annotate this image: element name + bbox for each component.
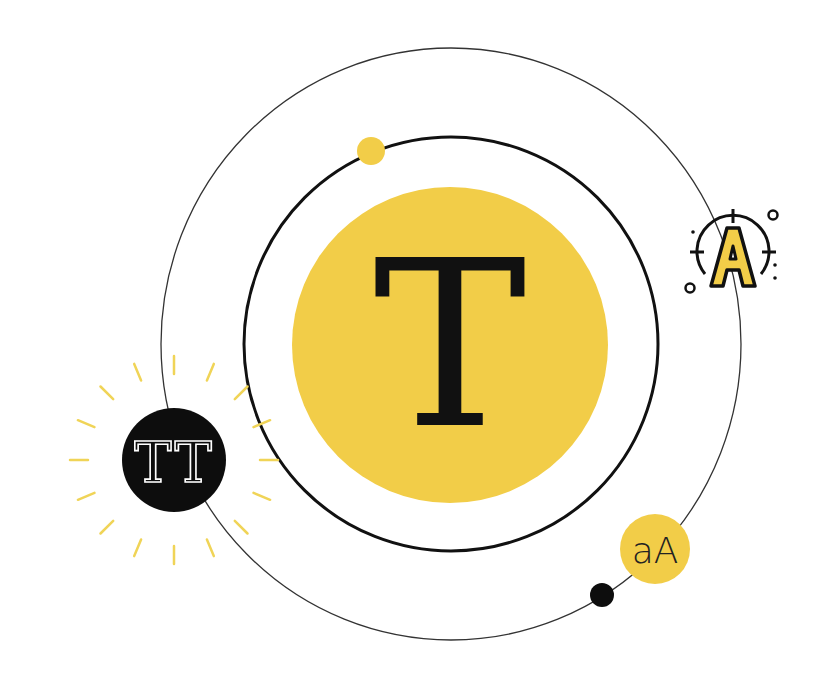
- sunburst-ray: [78, 493, 95, 500]
- left-badge: TT: [122, 408, 226, 512]
- center-badge: T: [292, 187, 608, 503]
- left-badge-glyph: TT: [134, 430, 214, 495]
- sunburst-ray: [78, 420, 95, 427]
- sunburst-ray: [101, 521, 114, 534]
- orbit-dot-black: [590, 583, 614, 607]
- typography-illustration: T TT aA: [0, 0, 827, 685]
- sunburst-ray: [134, 364, 141, 381]
- small-badge: aA: [620, 514, 690, 584]
- sunburst-ray: [207, 364, 214, 381]
- sunburst-ray: [235, 521, 248, 534]
- sunburst-ray: [134, 540, 141, 557]
- letter-a-target-icon: [686, 209, 778, 293]
- orbit-dot-yellow: [357, 137, 385, 165]
- small-badge-glyph: aA: [632, 530, 679, 571]
- sunburst-ray: [207, 540, 214, 557]
- sunburst-ray: [254, 493, 271, 500]
- center-badge-glyph: T: [373, 212, 526, 479]
- sunburst-ray: [235, 387, 248, 400]
- sunburst-ray: [101, 387, 114, 400]
